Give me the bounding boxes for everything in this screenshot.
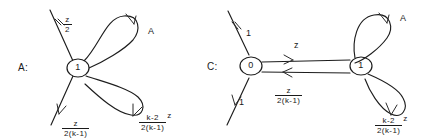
graph-a-name-label: A: — [18, 63, 28, 73]
graph-c-loop-upper — [354, 13, 390, 63]
graph-a-loop-upper — [84, 14, 138, 68]
graph-c-loop-lower-denominator: 2(k-1) — [375, 126, 402, 135]
graph-c-edge-bottom-label: z 2(k-1) — [275, 80, 302, 105]
graph-a-incoming-edge-label: z 2 — [63, 9, 72, 34]
graph-a-loop-upper-label: A — [148, 27, 154, 36]
graph-c-loop-upper-label: A — [400, 14, 406, 23]
graph-c-edge-bottom-denominator: 2(k-1) — [275, 96, 302, 105]
graph-c-outgoing-edge-label: 1 — [239, 98, 244, 107]
graph-a-node-1-label: 1 — [71, 63, 85, 72]
graph-c-node-1-label: 1 — [354, 61, 368, 70]
graph-c-node-0-label: 0 — [244, 61, 258, 70]
graph-a-loop-lower-denominator: 2(k-1) — [139, 123, 166, 132]
graph-a-incoming-denominator: 2 — [63, 25, 72, 34]
graph-c-incoming-edge-label: 1 — [246, 29, 251, 38]
graph-c-edge-bottom-numerator: z — [275, 86, 302, 96]
graph-a-outgoing-numerator: z — [62, 119, 89, 129]
graph-a-loop-lower-numerator: k-2 — [139, 113, 166, 123]
graph-a-loop-lower-label: k-2 2(k-1) z — [139, 107, 172, 132]
graph-c-edge-top-label: z — [294, 41, 299, 50]
graph-c-loop-lower-trail: z — [402, 115, 407, 123]
graph-c-edge-1-to-0 — [262, 68, 350, 77]
graph-a-incoming-numerator: z — [63, 15, 72, 25]
figure-canvas: A: 1 z 2 A z 2(k-1) k-2 2(k-1) z — [0, 0, 438, 140]
graph-a-loop-lower-trail: z — [166, 112, 171, 120]
graph-a-loop-lower — [85, 76, 143, 116]
graph-c-loop-lower-numerator: k-2 — [375, 116, 402, 126]
graph-c-loop-lower-label: k-2 2(k-1) z — [375, 110, 408, 135]
graph-c-name-label: C: — [207, 62, 218, 72]
graph-c-outgoing-arrow — [227, 78, 249, 125]
graph-a-outgoing-edge-label: z 2(k-1) — [62, 113, 89, 138]
graph-a-outgoing-denominator: 2(k-1) — [62, 129, 89, 138]
graph-c-edge-0-to-1 — [262, 55, 350, 64]
